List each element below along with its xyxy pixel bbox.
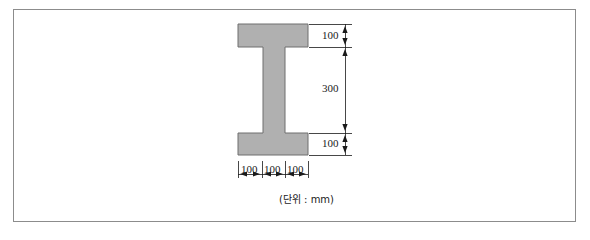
dimension-label-web-width: 100 (264, 164, 281, 175)
dimension-label-bottom-flange-thickness: 100 (322, 138, 339, 149)
dimension-label-web-height: 300 (322, 83, 339, 94)
dimension-label-top-flange-thickness: 100 (322, 30, 339, 41)
unit-note: (단위 : mm) (279, 195, 334, 205)
dimension-label-right-flange-overhang: 100 (287, 164, 304, 175)
ibeam-cross-section-shape (238, 24, 308, 155)
dimension-label-left-flange-overhang: 100 (241, 164, 258, 175)
